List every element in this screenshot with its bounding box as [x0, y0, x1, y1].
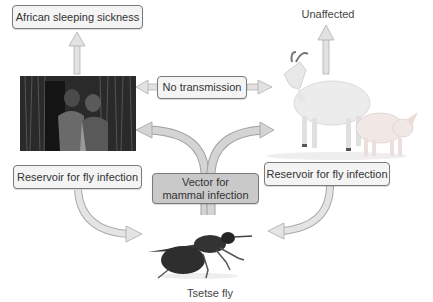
arrow-up-human-icon: [69, 32, 85, 74]
children-photo: [20, 76, 136, 151]
arrowhead-human-to-fly-icon: [126, 226, 142, 242]
tsetse-fly-photo: [148, 222, 258, 282]
arrow-animal-to-fly-icon: [282, 185, 330, 231]
goat-and-pig-photo: [262, 48, 422, 163]
tsetse-fly-label: Tsetse fly: [180, 287, 240, 299]
arrowhead-animal-to-fly-icon: [268, 223, 284, 239]
arrow-human-to-fly-icon: [78, 190, 128, 234]
no-transmission-label: No transmission: [157, 76, 247, 99]
african-sleeping-sickness-label: African sleeping sickness: [12, 5, 143, 29]
arrowhead-to-humans-icon: [136, 122, 152, 138]
vector-role-line2: mammal infection: [162, 189, 248, 202]
unaffected-label: Unaffected: [296, 8, 360, 20]
vector-role-line1: Vector for: [182, 176, 229, 189]
animal-reservoir-label: Reservoir for fly infection: [264, 162, 390, 186]
vector-role-label: Vector for mammal infection: [152, 173, 259, 204]
human-reservoir-label: Reservoir for fly infection: [13, 165, 142, 189]
